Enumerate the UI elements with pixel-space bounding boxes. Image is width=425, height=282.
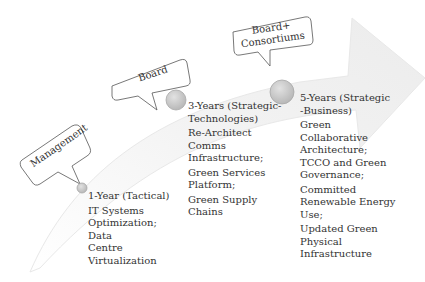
milestone-title: 3-Years (Strategic- <box>188 100 281 113</box>
milestone-item: Chains <box>188 206 281 219</box>
milestone-item: Platform; <box>188 179 281 192</box>
milestone-item: Data <box>88 230 169 243</box>
milestone-item: Committed <box>300 184 396 197</box>
milestone-item: Optimization; <box>88 217 169 230</box>
milestone-title: 5-Years (Strategic <box>300 92 396 105</box>
milestone-item: Green <box>300 119 396 132</box>
milestone-item: Re-Architect <box>188 127 281 140</box>
milestone-3-years: 3-Years (Strategic- Technologies) Re-Arc… <box>188 100 281 221</box>
milestone-item: Virtualization <box>88 255 169 268</box>
milestone-item: Infrastructure <box>300 248 396 261</box>
milestone-item: Centre <box>88 242 169 255</box>
milestone-item: Infrastructure; <box>188 152 281 165</box>
milestone-item: Green Supply <box>188 194 281 207</box>
milestone-node-1 <box>77 183 87 193</box>
milestone-item: Use; <box>300 209 396 222</box>
milestone-item: IT Systems <box>88 205 169 218</box>
milestone-item: Physical <box>300 236 396 249</box>
milestone-item: TCCO and Green <box>300 157 396 170</box>
milestone-title: -Business) <box>300 105 396 118</box>
milestone-title: Technologies) <box>188 113 281 126</box>
milestone-item: Green Services <box>188 167 281 180</box>
milestone-item: Architecture; <box>300 144 396 157</box>
milestone-5-years: 5-Years (Strategic -Business) Green Coll… <box>300 92 396 263</box>
milestone-item: Governance; <box>300 169 396 182</box>
milestone-title: 1-Year (Tactical) <box>88 190 169 203</box>
milestone-item: Updated Green <box>300 223 396 236</box>
milestone-item: Renewable Energy <box>300 196 396 209</box>
milestone-1-year: 1-Year (Tactical) IT Systems Optimizatio… <box>88 190 169 269</box>
milestone-item: Comms <box>188 140 281 153</box>
milestone-item: Collaborative <box>300 132 396 145</box>
milestone-node-2 <box>166 90 186 110</box>
